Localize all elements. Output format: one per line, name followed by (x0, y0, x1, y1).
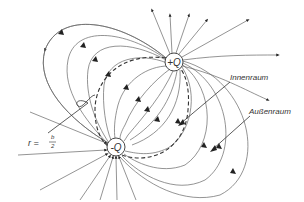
aussenraum-leader (212, 116, 250, 150)
svg-text:-Q: -Q (110, 142, 121, 153)
positive-charge: +Q (165, 53, 183, 71)
field-lines (18, 10, 278, 200)
svg-text:+Q: +Q (167, 57, 181, 68)
radius-leader (48, 95, 95, 133)
svg-text:2: 2 (50, 143, 55, 149)
innenraum-leader (180, 82, 230, 124)
innenraum-label: Innenraum (230, 73, 269, 82)
svg-text:b: b (51, 134, 55, 140)
aussenraum-label: Außenraum (248, 107, 291, 116)
negative-charge: -Q (107, 138, 125, 156)
dipole-field-diagram: +Q -Q Innenraum Außenraum r = b 2 (0, 0, 304, 202)
radius-label: r = b 2 (28, 134, 56, 149)
svg-text:r =: r = (28, 138, 39, 148)
